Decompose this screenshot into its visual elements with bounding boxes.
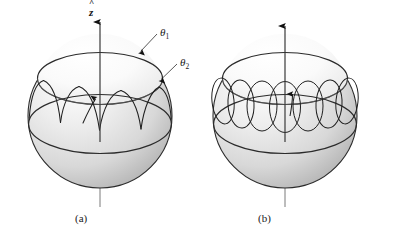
caption-panel-a: (a)	[75, 212, 87, 224]
panel-a	[28, 22, 177, 207]
panel-b	[210, 26, 361, 207]
caption-panel-b: (b)	[258, 212, 271, 224]
theta2-label: θ2	[180, 56, 189, 71]
theta2-sub: 2	[185, 62, 189, 71]
physics-sphere-figure	[0, 0, 403, 250]
leader-theta2	[161, 64, 177, 80]
theta1-sub: 1	[165, 32, 169, 41]
theta1-label: θ1	[160, 26, 169, 41]
z-axis-label: ^ z	[89, 1, 94, 18]
leader-theta1	[141, 34, 158, 52]
z-hat-symbol: ^	[89, 1, 94, 5]
z-letter: z	[89, 6, 93, 18]
